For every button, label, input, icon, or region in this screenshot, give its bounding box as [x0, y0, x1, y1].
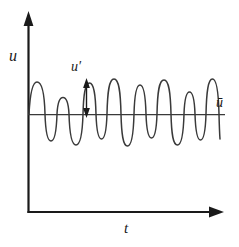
- fluctuation-label: u′: [71, 60, 81, 74]
- fluctuation-arrowhead-down-icon: [83, 108, 90, 118]
- mean-value-label: ū: [216, 96, 223, 110]
- x-axis-label: t: [124, 221, 128, 236]
- y-axis-label: u: [9, 48, 17, 64]
- figure-canvas: [0, 0, 239, 247]
- horizontal-axis-group: [28, 207, 225, 218]
- vertical-axis-arrowhead-icon: [24, 11, 34, 26]
- turbulence-fluctuation-figure: u t ū u′: [0, 0, 239, 247]
- velocity-signal-curve: [29, 79, 220, 146]
- horizontal-axis-arrowhead-icon: [209, 207, 224, 218]
